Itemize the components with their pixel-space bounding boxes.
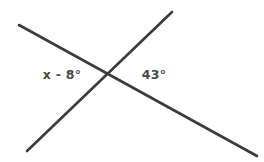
- left-angle-label: x - 8°: [43, 69, 82, 82]
- right-angle-label: 43°: [142, 69, 167, 82]
- angle-diagram-figure: x - 8° 43°: [0, 0, 264, 162]
- diagram-canvas: [0, 0, 264, 162]
